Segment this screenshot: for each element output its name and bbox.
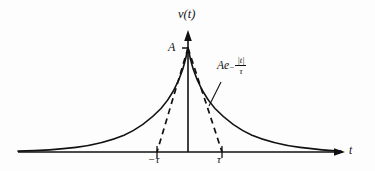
formula-numerator: |t| — [235, 56, 246, 65]
tick-label-negative-tau: −τ — [148, 154, 159, 165]
v-axis-label: v(t) — [178, 8, 195, 21]
tangent-line-left — [157, 48, 188, 152]
callout-leader-line — [209, 82, 221, 106]
right-arrow-icon — [334, 148, 345, 156]
amplitude-label: A — [168, 41, 175, 53]
figure-container: v(t) t A −τ τ Ae − |t| τ — [0, 0, 375, 171]
tick-label-positive-tau: τ — [217, 154, 221, 165]
t-axis-label: t — [349, 145, 352, 157]
formula-exponent: − |t| τ — [230, 56, 247, 76]
figure-canvas — [0, 0, 375, 171]
formula-fraction: |t| τ — [235, 56, 246, 76]
formula-base: Ae — [217, 60, 229, 72]
up-arrow-icon — [184, 30, 192, 41]
t-axis — [18, 148, 345, 156]
formula-minus-sign: − — [230, 63, 236, 72]
curve-formula-label: Ae − |t| τ — [217, 60, 246, 80]
formula-denominator: τ — [237, 67, 244, 76]
exponential-curve — [18, 48, 341, 151]
